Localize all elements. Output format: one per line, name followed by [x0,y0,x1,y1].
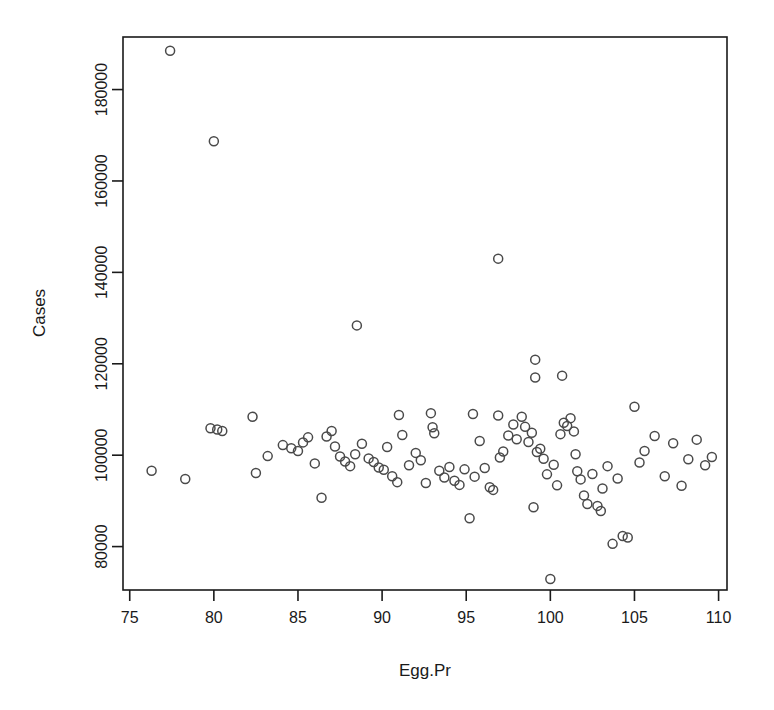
x-axis-title: Egg.Pr [399,661,451,680]
x-tick-label: 85 [289,609,307,626]
y-tick-label: 80000 [93,524,110,569]
y-tick-label: 180000 [93,63,110,116]
y-axis-title: Cases [30,289,49,337]
plot-canvas: 7580859095100105110 80000100000120000140… [0,0,774,710]
x-tick-label: 110 [706,609,732,626]
x-tick-label: 90 [373,609,391,626]
x-tick-label: 75 [121,609,139,626]
x-tick-label: 80 [205,609,223,626]
x-tick-label: 100 [537,609,564,626]
y-tick-label: 160000 [93,154,110,207]
x-tick-label: 105 [621,609,648,626]
y-tick-label: 120000 [93,337,110,390]
y-tick-label: 140000 [93,246,110,299]
y-tick-label: 100000 [93,428,110,481]
figure-background [0,0,774,710]
x-tick-label: 95 [457,609,475,626]
scatter-plot-figure: 7580859095100105110 80000100000120000140… [0,0,774,710]
